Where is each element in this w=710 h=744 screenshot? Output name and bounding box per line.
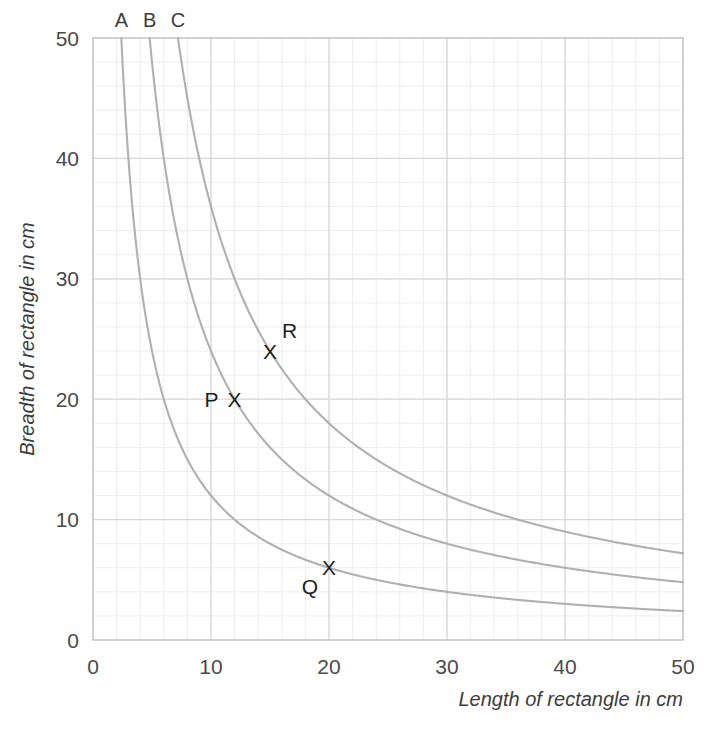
y-axis-title: Breadth of rectangle in cm <box>16 222 38 455</box>
data-point-marker-q: X <box>322 556 336 579</box>
x-tick-label-50: 50 <box>671 655 694 678</box>
y-tick-label-10: 10 <box>56 508 79 531</box>
y-tick-label-0: 0 <box>67 629 79 652</box>
y-tick-label-50: 50 <box>56 27 79 50</box>
data-point-label-p: P <box>205 388 219 411</box>
chart-background <box>0 0 710 744</box>
x-tick-label-30: 30 <box>435 655 458 678</box>
data-point-marker-p: X <box>228 388 242 411</box>
curve-label-a: A <box>115 9 129 31</box>
curve-label-c: C <box>171 9 185 31</box>
x-tick-label-10: 10 <box>199 655 222 678</box>
data-point-label-r: R <box>282 319 297 342</box>
x-axis-title: Length of rectangle in cm <box>458 688 683 710</box>
x-tick-label-40: 40 <box>553 655 576 678</box>
hyperbola-chart: ABC XPXQXR 01020304050 01020304050 Lengt… <box>0 0 710 744</box>
y-tick-label-30: 30 <box>56 267 79 290</box>
curve-label-b: B <box>143 9 156 31</box>
x-tick-label-20: 20 <box>317 655 340 678</box>
y-tick-label-40: 40 <box>56 147 79 170</box>
y-tick-label-20: 20 <box>56 388 79 411</box>
x-tick-label-0: 0 <box>87 655 99 678</box>
data-point-marker-r: X <box>263 340 277 363</box>
curve-label-group: ABC <box>115 9 186 31</box>
chart-figure: ABC XPXQXR 01020304050 01020304050 Lengt… <box>0 0 710 744</box>
data-point-label-q: Q <box>302 575 318 598</box>
